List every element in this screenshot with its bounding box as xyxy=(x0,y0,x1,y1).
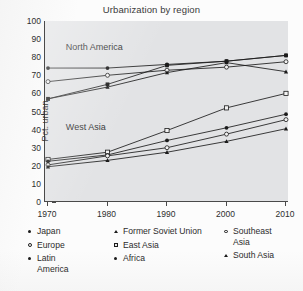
y-tick-label: 90 xyxy=(11,35,41,44)
legend-label-continued: Asia xyxy=(233,237,274,248)
data-point-marker xyxy=(284,53,288,57)
chart-title: Urbanization by region xyxy=(0,4,303,15)
data-point-marker xyxy=(284,112,288,116)
data-point-marker xyxy=(224,106,228,110)
y-tick-label: 100 xyxy=(11,17,41,26)
legend-label: South Asia xyxy=(233,250,274,260)
legend-item[interactable]: Japan xyxy=(28,226,69,237)
legend-column: SoutheastAsiaSouth Asia xyxy=(224,226,274,264)
x-tick-label: 1980 xyxy=(97,209,116,219)
y-tick-label: 50 xyxy=(11,107,41,116)
data-point-marker xyxy=(225,126,229,130)
y-tick-label: 40 xyxy=(11,125,41,134)
filled-circle-icon xyxy=(28,257,31,260)
legend-label: Southeast xyxy=(233,226,272,236)
data-point-marker xyxy=(284,126,288,130)
data-point-marker xyxy=(225,132,229,136)
open-circle-icon xyxy=(28,243,32,247)
legend-label: East Asia xyxy=(123,240,159,250)
data-point-marker xyxy=(225,65,229,69)
y-tick-label: 10 xyxy=(11,180,41,189)
chart-figure: Urbanization by region 01020304050607080… xyxy=(0,0,303,291)
triangle-icon xyxy=(224,254,228,257)
x-tick-mark xyxy=(226,202,227,206)
series-japan xyxy=(46,53,288,69)
y-tick-mark xyxy=(52,202,56,203)
y-axis-title: Pct. urban xyxy=(40,100,50,141)
legend-column: Former Soviet UnionEast AsiaAfrica xyxy=(114,226,202,267)
legend-label: Latin xyxy=(37,253,56,263)
legend-item[interactable]: South Asia xyxy=(224,250,274,261)
data-point-marker xyxy=(284,118,288,122)
data-point-marker xyxy=(284,91,288,95)
y-tick-label: 60 xyxy=(11,89,41,98)
data-point-marker xyxy=(106,154,110,158)
x-tick-mark xyxy=(166,202,167,206)
triangle-icon xyxy=(114,230,118,233)
legend-column: JapanEuropeLatinAmerica xyxy=(28,226,69,278)
y-axis-tick-labels: 0102030405060708090100 xyxy=(8,21,41,202)
y-tick-label: 20 xyxy=(11,162,41,171)
legend-item[interactable]: East Asia xyxy=(114,240,202,251)
data-point-marker xyxy=(165,128,169,132)
legend-item[interactable]: SoutheastAsia xyxy=(224,226,274,247)
x-tick-label: 1970 xyxy=(38,209,57,219)
legend-label: Former Soviet Union xyxy=(123,226,202,236)
annotation-north-america: North America xyxy=(66,42,123,52)
data-point-marker xyxy=(106,73,110,77)
filled-circle-icon xyxy=(28,230,31,233)
x-tick-label: 2010 xyxy=(276,209,295,219)
x-axis-tick-labels: 19701980199020002010 xyxy=(0,205,303,219)
data-point-marker xyxy=(165,139,169,143)
series-line xyxy=(48,55,286,98)
annotation-west-asia: West Asia xyxy=(66,122,106,132)
chart-legend: JapanEuropeLatinAmericaFormer Soviet Uni… xyxy=(28,226,296,286)
y-tick-label: 70 xyxy=(11,71,41,80)
plot-area: North America West Asia Pct. urban xyxy=(44,21,288,202)
legend-label: Europe xyxy=(37,240,65,250)
legend-item[interactable]: Europe xyxy=(28,240,69,251)
x-tick-mark xyxy=(47,202,48,206)
legend-item[interactable]: Africa xyxy=(114,253,202,264)
x-tick-mark xyxy=(107,202,108,206)
data-point-marker xyxy=(165,63,169,67)
legend-item[interactable]: LatinAmerica xyxy=(28,253,69,274)
data-point-marker xyxy=(46,66,50,70)
legend-label-continued: America xyxy=(37,264,69,275)
legend-label: Africa xyxy=(123,253,145,263)
data-point-marker xyxy=(284,60,288,64)
x-tick-label: 1990 xyxy=(157,209,176,219)
data-point-marker xyxy=(106,66,110,70)
data-point-marker xyxy=(46,80,50,84)
series-latin-america xyxy=(46,53,288,100)
y-tick-label: 80 xyxy=(11,53,41,62)
filled-circle-icon xyxy=(114,257,117,260)
x-tick-label: 2000 xyxy=(216,209,235,219)
open-square-icon xyxy=(114,243,118,247)
data-point-marker xyxy=(165,146,169,150)
y-tick-label: 30 xyxy=(11,143,41,152)
legend-item[interactable]: Former Soviet Union xyxy=(114,226,202,237)
legend-label: Japan xyxy=(37,226,60,236)
open-circle-icon xyxy=(224,230,228,234)
x-tick-mark xyxy=(285,202,286,206)
